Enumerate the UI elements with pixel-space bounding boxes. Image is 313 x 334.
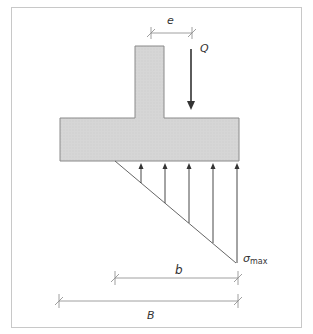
eccentricity-dimension — [147, 27, 196, 39]
pressure-arrows — [141, 168, 237, 263]
load-arrow-head — [187, 101, 195, 110]
load-label: Q — [200, 42, 209, 55]
pressure-diagram-hypotenuse — [115, 161, 236, 263]
full-width-dimension — [55, 294, 242, 308]
footing-shape — [60, 46, 239, 161]
full-width-label: B — [147, 309, 155, 322]
effective-width-label: b — [175, 263, 183, 277]
sigma-max-label: σmax — [243, 252, 268, 266]
footing-diagram: e Q σmax b B — [0, 0, 313, 334]
eccentricity-label: e — [167, 14, 174, 27]
pressure-arrow-heads — [139, 163, 240, 169]
